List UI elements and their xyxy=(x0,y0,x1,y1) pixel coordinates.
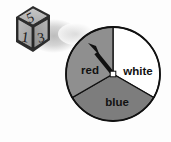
illustration-svg: 5 1 3 red white blue xyxy=(0,0,171,142)
spinner-label-red: red xyxy=(81,64,99,76)
spinner-label-blue: blue xyxy=(105,96,129,108)
spinner-label-white: white xyxy=(122,65,152,77)
spinner-pivot xyxy=(110,71,116,77)
three-sector-spinner: red white blue xyxy=(66,27,160,121)
figure-canvas: 5 1 3 red white blue xyxy=(0,0,171,142)
